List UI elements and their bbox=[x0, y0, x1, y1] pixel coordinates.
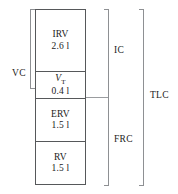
segment-vt: VT 0.4 l bbox=[36, 71, 85, 98]
tlc-bracket-line bbox=[143, 9, 144, 185]
vc-bracket-line bbox=[30, 9, 31, 88]
capacity-label-vc: VC bbox=[12, 68, 26, 78]
ic-bracket-tick-top bbox=[104, 9, 109, 10]
volume-column: IRV 2.6 l VT 0.4 l ERV 1.5 l RV 1.5 l bbox=[35, 9, 86, 185]
vt-to-bracket-connector bbox=[86, 97, 108, 98]
segment-irv-label: IRV bbox=[52, 29, 68, 40]
segment-vt-subscript: T bbox=[61, 78, 65, 86]
segment-irv-value: 2.6 l bbox=[52, 41, 70, 52]
tlc-bracket-tick-top bbox=[139, 9, 144, 10]
capacity-label-tlc: TLC bbox=[150, 90, 169, 100]
segment-rv-value: 1.5 l bbox=[52, 163, 70, 174]
tlc-bracket-tick-bottom bbox=[139, 185, 144, 186]
segment-vt-label: VT bbox=[55, 73, 65, 86]
segment-erv-label: ERV bbox=[51, 109, 70, 120]
vc-bracket-tick-bottom bbox=[30, 88, 35, 89]
frc-bracket-tick-bottom bbox=[104, 185, 109, 186]
segment-vt-value: 0.4 l bbox=[52, 86, 70, 97]
segment-erv-value: 1.5 l bbox=[52, 120, 70, 131]
lung-volumes-diagram: IRV 2.6 l VT 0.4 l ERV 1.5 l RV 1.5 l VC… bbox=[0, 0, 178, 194]
segment-erv: ERV 1.5 l bbox=[36, 98, 85, 141]
segment-rv-label: RV bbox=[54, 152, 67, 163]
capacity-label-ic: IC bbox=[114, 45, 124, 55]
segment-irv: IRV 2.6 l bbox=[36, 10, 85, 71]
vc-bracket-tick-top bbox=[30, 9, 35, 10]
segment-rv: RV 1.5 l bbox=[36, 141, 85, 184]
capacity-label-frc: FRC bbox=[114, 134, 133, 144]
